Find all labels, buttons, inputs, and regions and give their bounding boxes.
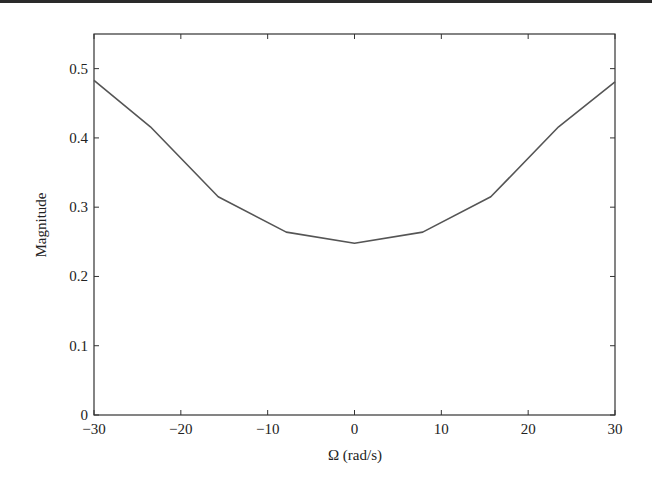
plot-frame <box>94 34 615 415</box>
x-tick-label: −10 <box>256 421 279 437</box>
y-tick-label: 0.4 <box>69 130 88 146</box>
magnitude-line <box>94 80 615 243</box>
x-axis-label: Ω (rad/s) <box>328 447 382 464</box>
magnitude-chart: 00.10.20.30.40.5 −30−20−100102030 Ω (rad… <box>0 0 652 497</box>
x-tick-label: 0 <box>351 421 359 437</box>
y-tick-label: 0.5 <box>69 61 88 77</box>
plot-border <box>94 34 615 415</box>
x-tick-label: −30 <box>82 421 105 437</box>
y-tick-label: 0.3 <box>69 199 88 215</box>
x-axis: −30−20−100102030 <box>82 34 622 437</box>
data-series <box>94 80 615 243</box>
x-tick-label: 10 <box>434 421 449 437</box>
y-tick-label: 0.2 <box>69 268 88 284</box>
y-axis-label: Magnitude <box>33 192 49 257</box>
x-tick-label: −20 <box>169 421 192 437</box>
x-tick-label: 20 <box>521 421 536 437</box>
x-tick-label: 30 <box>608 421 623 437</box>
y-tick-label: 0.1 <box>69 338 88 354</box>
